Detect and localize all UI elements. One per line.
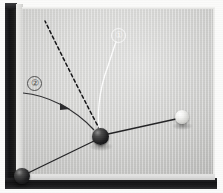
callout-1: ① — [111, 28, 126, 43]
ball-corner-ball — [14, 168, 30, 184]
trajectory-overlay — [0, 0, 223, 193]
direction-arrow-on-curve-2-icon — [60, 103, 70, 110]
ball-cue-ball — [175, 110, 189, 124]
trajectory-dashed-path — [45, 21, 100, 130]
billiard-trajectory-figure: ② ① — [0, 0, 223, 193]
trajectory-collision-to-cue-path — [108, 119, 176, 134]
trajectory-corner-to-collision-path — [28, 141, 94, 173]
callout-2: ② — [27, 76, 42, 91]
trajectory-white-curve-path — [99, 42, 116, 132]
ball-object-ball-collision — [92, 128, 109, 145]
